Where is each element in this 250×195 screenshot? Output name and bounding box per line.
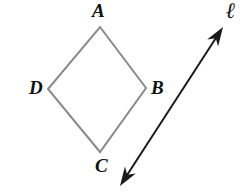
- arrowhead-up-icon: [207, 27, 223, 47]
- vertex-label-b: B: [151, 78, 164, 97]
- vertex-label-d: D: [29, 78, 43, 97]
- vertex-label-c: C: [95, 156, 108, 175]
- geometry-figure: A B C D ℓ: [0, 0, 250, 195]
- arrowhead-down-icon: [120, 167, 136, 187]
- line-label-l: ℓ: [226, 0, 235, 22]
- rhombus-outline: [48, 27, 146, 152]
- vertex-label-a: A: [92, 1, 105, 20]
- line-l-shaft: [123, 31, 221, 182]
